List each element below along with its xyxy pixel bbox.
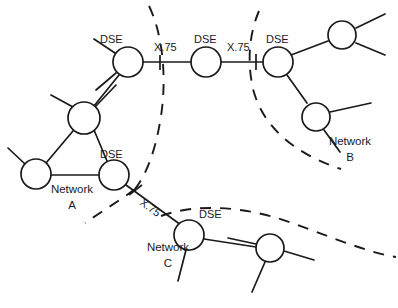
link-node-a-dse-top--node-a-top — [94, 75, 119, 106]
stub-line — [8, 148, 25, 164]
node-network-b-lower[interactable] — [302, 103, 330, 131]
network-topology-figure: DSE DSE DSE DSE DSE X.75 X.75 X.75 Netwo… — [0, 0, 398, 308]
label-network-b-line1: Network — [329, 135, 371, 147]
network-a-boundary-arc — [135, 6, 164, 189]
network-nodes — [21, 21, 356, 262]
node-network-b-upper[interactable] — [328, 21, 356, 49]
link-node-a-top--node-a-left — [46, 131, 73, 163]
label-dse-top-right: DSE — [266, 33, 289, 45]
label-network-c-line2: C — [164, 257, 172, 269]
label-network-a-line1: Network — [51, 183, 93, 195]
label-network-a-line2: A — [68, 199, 76, 211]
network-diagram-canvas: DSE DSE DSE DSE DSE X.75 X.75 X.75 Netwo… — [0, 0, 398, 308]
stub-line — [178, 250, 186, 281]
label-x75-right: X.75 — [227, 41, 250, 53]
node-dse-top-right[interactable] — [263, 47, 293, 77]
label-x75-left: X.75 — [154, 41, 177, 53]
label-dse-network-a: DSE — [100, 148, 123, 160]
node-dse-top-middle[interactable] — [191, 47, 221, 77]
boundary-tick-mark — [129, 185, 142, 195]
link-node-b-dse--node-b-lower — [287, 75, 307, 103]
node-dse-top-left[interactable] — [113, 47, 143, 77]
node-network-a-dse[interactable] — [99, 160, 129, 190]
label-network-b-line2: B — [346, 151, 354, 163]
node-network-c-right[interactable] — [256, 234, 284, 262]
link-node-b-dse--node-b-upper — [291, 41, 328, 55]
stub-line — [356, 43, 385, 55]
stub-line — [252, 262, 265, 292]
stub-line — [51, 95, 73, 107]
label-network-c-line1: Network — [147, 241, 189, 253]
node-network-a-left[interactable] — [21, 159, 51, 189]
node-network-a-top[interactable] — [68, 102, 100, 134]
stub-line — [330, 103, 371, 112]
label-dse-network-c: DSE — [199, 208, 222, 220]
stub-line — [356, 14, 385, 28]
label-x75-diagonal: X.75 — [138, 196, 163, 219]
stub-line — [284, 251, 314, 260]
label-dse-top-left: DSE — [100, 33, 123, 45]
label-dse-top-middle: DSE — [194, 33, 217, 45]
